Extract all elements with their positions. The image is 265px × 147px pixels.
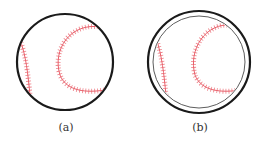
- baseball-diagram: [0, 0, 265, 147]
- baseball-a: [17, 14, 113, 110]
- inner-ring-b: [153, 16, 245, 108]
- caption-a: (a): [46, 121, 86, 134]
- ball-outline-a: [17, 14, 113, 110]
- baseball-b: [148, 11, 250, 113]
- caption-b: (b): [180, 121, 220, 134]
